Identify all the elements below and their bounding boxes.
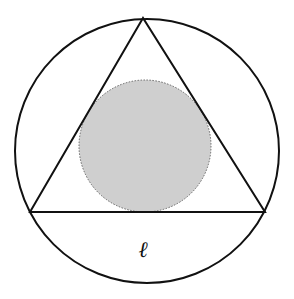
geometry-diagram: ℓ (0, 0, 294, 299)
shaded-inscribed-circle (79, 80, 211, 212)
side-length-label: ℓ (138, 237, 148, 262)
